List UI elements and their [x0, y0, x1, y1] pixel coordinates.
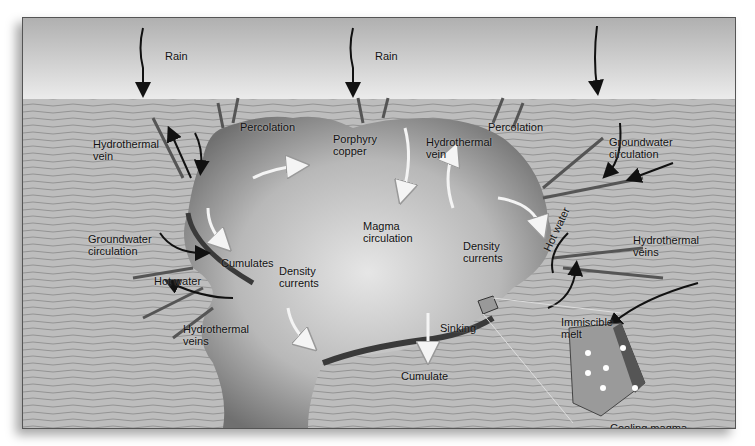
- label-percolation-1: Percolation: [240, 121, 295, 133]
- label-hydrothermal-vein-1: Hydrothermal vein: [93, 138, 159, 162]
- label-density-currents-right: Density currents: [463, 240, 503, 264]
- label-hydrothermal-vein-2: Hydrothermal vein: [426, 136, 492, 160]
- label-percolation-2: Percolation: [488, 121, 543, 133]
- label-groundwater-circulation-left: Groundwater circulation: [88, 233, 152, 257]
- label-hydrothermal-veins-right: Hydrothermal veins: [633, 234, 699, 258]
- label-porphyry-copper: Porphyry copper: [333, 133, 377, 157]
- label-groundwater-circulation-right: Groundwater circulation: [609, 136, 673, 160]
- label-rain-2: Rain: [375, 50, 398, 62]
- label-hot-water-left: Hot water: [154, 275, 201, 287]
- label-magma-circulation: Magma circulation: [363, 220, 413, 244]
- label-cumulates: Cumulates: [221, 257, 274, 269]
- label-immiscible-melt: Immiscible melt: [561, 316, 613, 340]
- label-rain-1: Rain: [165, 50, 188, 62]
- label-sinking: Sinking: [440, 322, 476, 334]
- label-cumulate: Cumulate: [401, 370, 448, 382]
- label-density-currents-left: Density currents: [279, 265, 319, 289]
- label-cooling-magma: Cooling magma: [610, 422, 687, 429]
- diagram-frame: Rain Rain Percolation Percolation Hydrot…: [22, 17, 736, 429]
- label-hydrothermal-veins-left: Hydrothermal veins: [183, 323, 249, 347]
